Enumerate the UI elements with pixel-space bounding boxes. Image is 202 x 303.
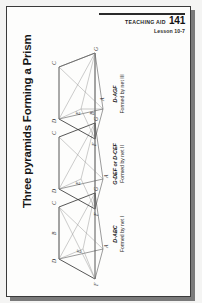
vertex-label-d: D (51, 189, 57, 194)
worksheet-page: Teaching Aid 141 Lesson 10-7 Three pyram… (6, 6, 191, 297)
teaching-aid-number: 141 (169, 16, 185, 26)
vertex-label-a: A (103, 174, 109, 179)
page-title: Three pyramids Forming a Prism (21, 38, 33, 208)
vertex-label-d: D (51, 259, 57, 264)
vertex-label-g: G (93, 47, 99, 51)
vertex-label-b: B (89, 111, 95, 115)
figure-3-name: D-AGF (112, 35, 119, 153)
vertex-label-e: E (76, 249, 82, 254)
vertex-label-f: F (93, 212, 99, 217)
figure-pyramid-d-agf: D A B C E F G D-AGF Formed by net III (47, 35, 125, 153)
vertex-label-d: D (51, 119, 57, 124)
vertex-label-f: F (93, 282, 99, 287)
vertex-label-b: B (51, 231, 57, 235)
vertex-label-a: A (103, 244, 109, 249)
lesson-number: Lesson 10-7 (99, 28, 185, 34)
vertex-label-c: C (51, 61, 57, 65)
vertex-label-f: F (91, 142, 97, 147)
figure-3-diagram: D A B C E F G (47, 35, 109, 153)
document-header: Teaching Aid 141 Lesson 10-7 (99, 13, 185, 34)
figure-3-caption: D-AGF Formed by net III (112, 35, 125, 153)
figure-3-subtitle: Formed by net III (119, 35, 126, 153)
teaching-aid-line: Teaching Aid 141 (99, 16, 185, 26)
teaching-aid-label: Teaching Aid (125, 20, 166, 25)
